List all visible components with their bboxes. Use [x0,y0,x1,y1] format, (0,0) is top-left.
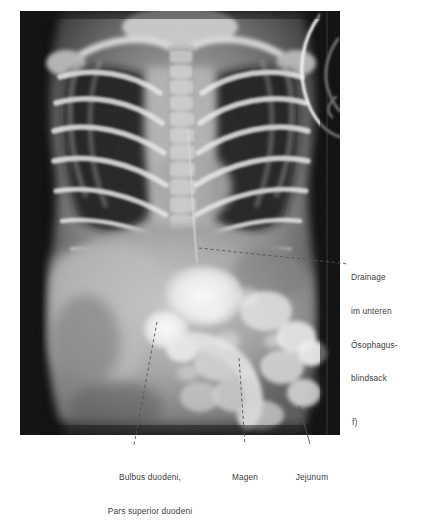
annotation-drainage-line-4: blindsack [351,373,398,384]
radiograph-image [20,11,340,435]
annotation-bulbus-line-2: Pars superior duodeni [108,506,192,517]
annotation-drainage-line-3: Ösophagus- [351,340,398,351]
annotation-jejunum-line-1: Jejunum [296,472,328,483]
figure-letter: f) [352,417,357,427]
annotation-drainage: Drainage im unteren Ösophagus- blindsack [351,250,398,407]
annotation-bulbus-duodeni: Bulbus duodeni, Pars superior duodeni [108,450,192,520]
annotation-magen: Magen [232,450,258,506]
annotation-magen-line-1: Magen [232,472,258,483]
annotation-jejunum: Jejunum [296,450,328,506]
annotation-drainage-line-2: im unteren [351,306,398,317]
annotation-bulbus-line-1: Bulbus duodeni, [108,472,192,483]
annotation-drainage-line-1: Drainage [351,272,398,283]
